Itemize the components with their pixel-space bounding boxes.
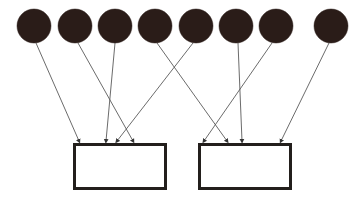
node-circle-n8[interactable] xyxy=(314,9,348,43)
node-circle-n5[interactable] xyxy=(179,9,213,43)
edge-arrow-n8-to-b2 xyxy=(281,43,329,141)
edges-layer xyxy=(36,43,329,141)
edge-arrow-n6-to-b2 xyxy=(238,43,242,141)
edge-arrow-n1-to-b1 xyxy=(36,43,79,141)
nodes-layer xyxy=(17,9,348,43)
edge-arrow-n2-to-b1 xyxy=(78,43,133,141)
node-circle-n2[interactable] xyxy=(58,9,92,43)
edge-arrow-n7-to-b2 xyxy=(204,43,272,141)
box-b2[interactable] xyxy=(200,145,291,189)
node-circle-n6[interactable] xyxy=(219,9,253,43)
diagram-svg xyxy=(0,0,364,207)
node-circle-n4[interactable] xyxy=(138,9,172,43)
node-circle-n3[interactable] xyxy=(98,9,132,43)
edge-arrow-n3-to-b1 xyxy=(106,43,115,141)
edge-arrow-n5-to-b1 xyxy=(117,43,193,141)
diagram-canvas xyxy=(0,0,364,207)
boxes-layer xyxy=(75,145,291,189)
node-circle-n7[interactable] xyxy=(259,9,293,43)
box-b1[interactable] xyxy=(75,145,166,189)
edge-arrow-n4-to-b2 xyxy=(157,43,227,141)
node-circle-n1[interactable] xyxy=(17,9,51,43)
